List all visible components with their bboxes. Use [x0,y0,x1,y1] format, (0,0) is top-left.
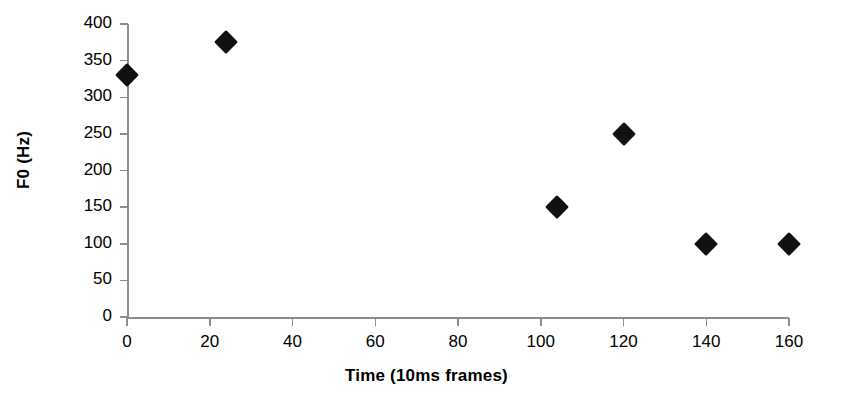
x-tick-label: 140 [666,332,746,352]
y-tick-mark [120,243,128,245]
y-tick-label: 350 [22,50,112,70]
y-tick-mark [120,23,128,25]
x-axis-title: Time (10ms frames) [0,366,853,386]
data-point-marker [694,232,718,256]
x-tick-mark [126,318,128,326]
x-tick-label: 0 [87,332,167,352]
x-tick-label: 20 [170,332,250,352]
data-point-marker [115,63,139,87]
data-point-marker [777,232,801,256]
x-tick-label: 40 [253,332,333,352]
x-tick-mark [788,318,790,326]
x-tick-label: 60 [335,332,415,352]
x-tick-mark [623,318,625,326]
y-tick-label: 400 [22,13,112,33]
y-tick-mark [120,170,128,172]
y-tick-mark [120,280,128,282]
x-tick-mark [209,318,211,326]
y-tick-mark [120,133,128,135]
x-tick-mark [457,318,459,326]
scatter-chart: F0 (Hz) Time (10ms frames) 0501001502002… [0,0,853,417]
y-tick-mark [120,60,128,62]
data-point-marker [545,195,569,219]
y-tick-label: 100 [22,233,112,253]
data-point-marker [214,30,238,54]
y-tick-label: 50 [22,269,112,289]
y-tick-label: 300 [22,86,112,106]
x-tick-label: 100 [501,332,581,352]
y-tick-label: 250 [22,123,112,143]
y-tick-label: 200 [22,160,112,180]
x-tick-mark [706,318,708,326]
data-point-marker [611,122,635,146]
y-tick-mark [120,206,128,208]
y-tick-label: 0 [22,306,112,326]
x-tick-mark [375,318,377,326]
y-tick-label: 150 [22,196,112,216]
x-tick-label: 160 [749,332,829,352]
x-tick-label: 80 [418,332,498,352]
x-tick-label: 120 [584,332,664,352]
x-tick-mark [540,318,542,326]
y-tick-mark [120,97,128,99]
x-tick-mark [292,318,294,326]
